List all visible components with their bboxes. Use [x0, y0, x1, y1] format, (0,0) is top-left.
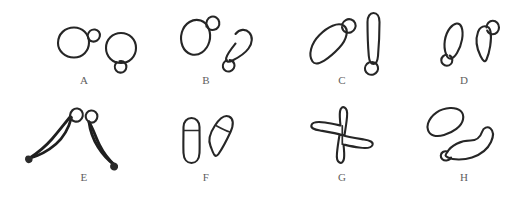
cell-b1 [181, 17, 219, 55]
cell-f2 [209, 116, 232, 156]
panel-b: B [140, 2, 272, 100]
panel-b-drawing [140, 2, 272, 82]
panel-c-drawing [276, 2, 408, 82]
panel-h: H [398, 99, 530, 197]
cell-h2 [441, 127, 493, 160]
cell-d2 [477, 21, 499, 61]
cell-b2 [223, 30, 252, 72]
figure-root: A B [0, 0, 530, 197]
panel-c: C [276, 2, 408, 100]
panel-g: G [276, 99, 408, 197]
panel-label-h: H [398, 171, 530, 183]
panel-g-drawing [276, 99, 408, 179]
panel-label-a: A [18, 74, 150, 86]
panel-d: D [398, 2, 530, 100]
cell-c2 [365, 13, 380, 75]
panel-label-f: F [140, 171, 272, 183]
cell-e1 [26, 108, 83, 162]
panel-label-d: D [398, 74, 530, 86]
panel-f-drawing [140, 99, 272, 179]
cell-c1 [310, 19, 355, 63]
cell-h1 [428, 108, 464, 136]
panel-label-g: G [276, 171, 408, 183]
panel-a-drawing [18, 2, 150, 82]
panel-d-drawing [398, 2, 530, 82]
panel-e: E [18, 99, 150, 197]
panel-a: A [18, 2, 150, 100]
cell-e2 [86, 110, 118, 169]
cell-a2 [106, 33, 136, 73]
cell-f1 [183, 118, 199, 163]
cell-a1 [58, 28, 100, 58]
panel-e-drawing [18, 99, 150, 179]
panel-label-e: E [18, 171, 150, 183]
panel-label-c: C [276, 74, 408, 86]
panel-f: F [140, 99, 272, 197]
cell-d1 [441, 24, 462, 66]
panel-label-b: B [140, 74, 272, 86]
panel-h-drawing [398, 99, 530, 179]
